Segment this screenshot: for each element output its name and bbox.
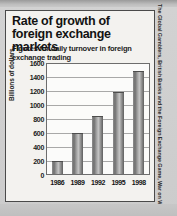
bar-1989 — [72, 133, 83, 174]
bar-series — [47, 64, 149, 174]
bar-1986 — [52, 161, 63, 174]
y-tick-label: 200 — [33, 158, 44, 165]
y-axis-label: Billions of dollars — [8, 31, 15, 101]
bar-slot — [129, 64, 149, 174]
y-tick-label: 600 — [33, 130, 44, 137]
y-tick-label: 0 — [40, 172, 44, 179]
bar-slot — [108, 64, 128, 174]
source-credit: The Global Gamblers, British Banks and t… — [157, 4, 163, 214]
y-tick-label: 1000 — [30, 102, 44, 109]
x-tick-label: 1998 — [129, 179, 149, 186]
bar-1998 — [133, 71, 144, 174]
x-tick-label: 1986 — [47, 179, 67, 186]
plot-area: Billions of dollars 16001400120010008006… — [12, 63, 151, 199]
y-axis-ticks: 16001400120010008006004002000 — [20, 63, 44, 175]
y-tick-label: 800 — [33, 116, 44, 123]
y-tick-label: 1400 — [30, 74, 44, 81]
bar-1992 — [92, 116, 103, 174]
x-axis-ticks: 19861989199219951998 — [47, 179, 149, 186]
bar-slot — [47, 64, 67, 174]
scanned-page-background: Rate of growth of foreign exchange marke… — [0, 0, 177, 216]
x-tick-label: 1995 — [108, 179, 128, 186]
chart-card: Rate of growth of foreign exchange marke… — [5, 10, 155, 202]
bar-slot — [67, 64, 87, 174]
y-tick-label: 1200 — [30, 88, 44, 95]
y-tick-label: 400 — [33, 144, 44, 151]
bar-slot — [88, 64, 108, 174]
x-tick-label: 1992 — [88, 179, 108, 186]
bar-1995 — [113, 92, 124, 174]
y-tick-label: 1600 — [30, 60, 44, 67]
x-tick-label: 1989 — [67, 179, 87, 186]
